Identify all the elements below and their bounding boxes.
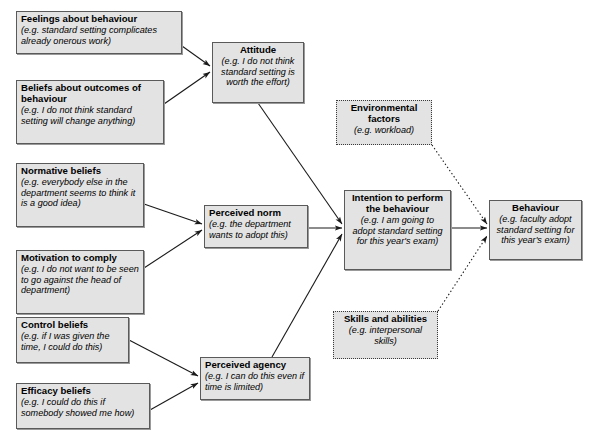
node-skills[interactable]: Skills and abilities(e.g. interpersonal … [333,311,438,359]
node-example: (e.g. workload) [341,125,427,135]
node-example: (e.g. standard setting complicates alrea… [21,25,177,46]
node-example: (e.g. faculty adopt standard setting for… [494,214,577,245]
node-example: (e.g. if I was given the time, I could d… [21,331,124,352]
edge-control-agency [129,340,198,376]
node-intention[interactable]: Intention to perform the behaviour(e.g. … [344,190,451,270]
edge-efficacy-agency [150,383,198,410]
node-example: (e.g. I do not think standard setting is… [217,56,299,87]
node-example: (e.g. I do not think standard setting wi… [21,105,159,126]
node-heading: Beliefs about outcomes of behaviour [21,83,159,105]
node-heading: Motivation to comply [21,253,139,264]
node-beliefs_outcomes[interactable]: Beliefs about outcomes of behaviour(e.g.… [16,80,164,144]
edge-motivation-norm [144,230,202,268]
edge-agency-intention [272,234,342,357]
node-heading: Perceived agency [205,360,305,371]
node-example: (e.g. I could do this if somebody showed… [21,397,145,418]
node-behaviour[interactable]: Behaviour(e.g. faculty adopt standard se… [489,200,582,260]
node-heading: Feelings about behaviour [21,14,177,25]
node-heading: Control beliefs [21,320,124,331]
node-normative[interactable]: Normative beliefs(e.g. everybody else in… [16,163,144,227]
node-feelings[interactable]: Feelings about behaviour(e.g. standard s… [16,11,182,54]
node-heading: Perceived norm [209,208,303,219]
node-heading: Efficacy beliefs [21,386,145,397]
diagram-canvas: Feelings about behaviour(e.g. standard s… [0,0,593,437]
node-heading: Normative beliefs [21,166,139,177]
node-heading: Behaviour [494,203,577,214]
node-example: (e.g. I do not want to be seen to go aga… [21,264,139,295]
node-heading: Attitude [217,45,299,56]
node-control[interactable]: Control beliefs(e.g. if I was given the … [16,317,129,363]
node-example: (e.g. I can do this even if time is limi… [205,371,305,392]
node-example: (e.g. interpersonal skills) [338,325,433,346]
node-perceived_norm[interactable]: Perceived norm(e.g. the department wants… [204,205,308,248]
node-heading: Environmental factors [341,103,427,125]
node-example: (e.g. the department wants to adopt this… [209,219,303,240]
node-efficacy[interactable]: Efficacy beliefs(e.g. I could do this if… [16,383,150,429]
node-attitude[interactable]: Attitude(e.g. I do not think standard se… [212,42,304,103]
edge-feelings-attitude [182,46,210,66]
node-example: (e.g. I am going to adopt standard setti… [349,215,446,246]
node-motivation[interactable]: Motivation to comply(e.g. I do not want … [16,250,144,314]
node-heading: Intention to perform the behaviour [349,193,446,215]
node-heading: Skills and abilities [338,314,433,325]
node-perceived_agency[interactable]: Perceived agency(e.g. I can do this even… [200,357,310,400]
edge-beliefs-attitude [164,72,210,104]
node-environmental[interactable]: Environmental factors(e.g. workload) [336,100,432,145]
edge-normative-norm [144,204,202,224]
node-example: (e.g. everybody else in the department s… [21,177,139,208]
